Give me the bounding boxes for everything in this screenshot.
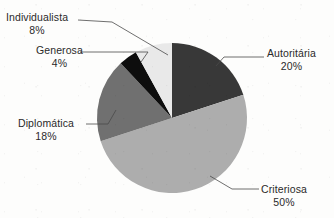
slice-label-criteriosa: Criteriosa 50% — [261, 183, 307, 208]
slice-label-criteriosa-name: Criteriosa — [261, 183, 307, 196]
slice-label-diplomatica-name: Diplomática — [18, 117, 74, 130]
slice-label-generosa-name: Generosa — [36, 44, 83, 57]
slice-label-individualista-percent: 8% — [6, 24, 68, 37]
slice-label-individualista-name: Individualista — [6, 11, 68, 24]
slice-label-individualista: Individualista 8% — [6, 11, 68, 36]
slice-label-criteriosa-percent: 50% — [261, 196, 307, 209]
pie-slices — [97, 43, 247, 193]
slice-label-autoritaria-name: Autoritária — [267, 47, 316, 60]
pie-chart: Individualista 8% Generosa 4% Diplomátic… — [0, 0, 334, 218]
slice-label-diplomatica: Diplomática 18% — [18, 117, 74, 142]
slice-label-generosa: Generosa 4% — [36, 44, 83, 69]
slice-label-diplomatica-percent: 18% — [18, 130, 74, 143]
slice-label-generosa-percent: 4% — [36, 57, 83, 70]
leader-line-criteriosa — [210, 176, 259, 189]
slice-label-autoritaria-percent: 20% — [267, 60, 316, 73]
slice-label-autoritaria: Autoritária 20% — [267, 47, 316, 72]
